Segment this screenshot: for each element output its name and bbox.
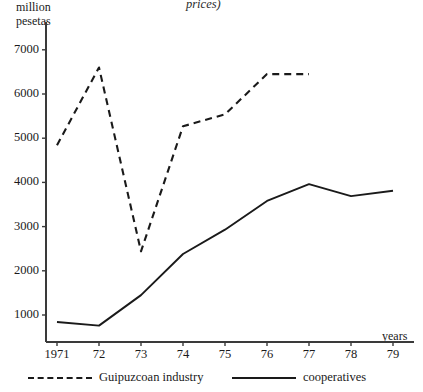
x-tick-label: 73 — [120, 347, 162, 362]
chart-legend: Guipuzcoan industry cooperatives — [0, 368, 423, 390]
y-tick-label: 4000 — [0, 174, 39, 189]
x-tick-label: 78 — [330, 347, 372, 362]
y-tick-label: 1000 — [0, 307, 39, 322]
y-tick-label: 3000 — [0, 219, 39, 234]
legend-swatch-dashed-icon — [28, 377, 92, 379]
plot-area — [0, 0, 423, 392]
y-tick-label: 2000 — [0, 263, 39, 278]
y-tick-label: 6000 — [0, 86, 39, 101]
y-tick-label: 7000 — [0, 42, 39, 57]
legend-item-guipuzcoan-industry: Guipuzcoan industry — [28, 370, 204, 385]
chart-container: prices) million pesetas years 1000200030… — [0, 0, 423, 392]
x-tick-label: 1971 — [36, 347, 78, 362]
series-line-cooperatives — [57, 184, 393, 325]
x-tick-label: 74 — [162, 347, 204, 362]
legend-label-cooperatives: cooperatives — [303, 370, 366, 385]
x-tick-label: 76 — [246, 347, 288, 362]
x-tick-label: 75 — [204, 347, 246, 362]
y-tick-label: 5000 — [0, 130, 39, 145]
legend-swatch-solid-icon — [232, 377, 296, 379]
legend-item-cooperatives: cooperatives — [232, 370, 366, 385]
x-tick-label: 77 — [288, 347, 330, 362]
x-tick-label: 79 — [372, 347, 414, 362]
x-tick-label: 72 — [78, 347, 120, 362]
series-line-guipuzcoan-industry — [57, 67, 309, 251]
legend-label-guipuzcoan-industry: Guipuzcoan industry — [99, 370, 204, 385]
